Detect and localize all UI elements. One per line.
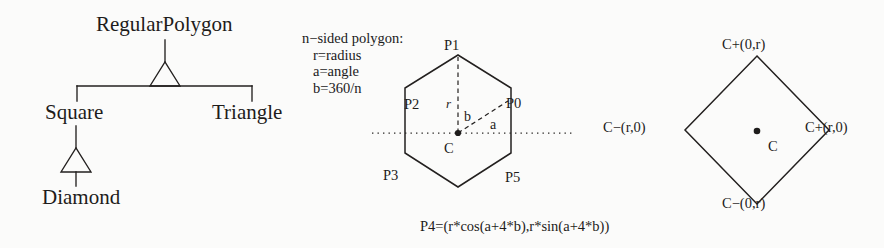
- hexagon-vertex-label-p3: P3: [383, 168, 398, 183]
- diamond-center-label: C: [768, 139, 778, 154]
- figure-canvas: RegularPolygon Square Triangle Diamond n…: [0, 0, 884, 248]
- hexagon-vertex-label-p2: P2: [404, 97, 419, 112]
- uml-generalization-triangle-square: [61, 148, 91, 172]
- hexagon-center-dot: [455, 130, 461, 136]
- diamond-center-dot: [754, 128, 761, 135]
- uml-class-label-triangle: Triangle: [212, 102, 282, 123]
- hexagon-radius-label: r: [446, 97, 451, 110]
- uml-root-class-label: RegularPolygon: [96, 14, 233, 35]
- diamond-vertex-label-top: C+(0,r): [722, 37, 765, 52]
- hexagon-vertex-label-p1: P1: [444, 38, 459, 53]
- hexagon-vertex-label-p5: P5: [505, 170, 520, 185]
- uml-class-label-diamond: Diamond: [42, 187, 120, 208]
- uml-generalization-triangle-root: [150, 62, 180, 86]
- hexagon-angle-a-label: a: [490, 118, 496, 132]
- hexagon-note-line-0: n−sided polygon:: [302, 30, 403, 47]
- hexagon-angle-b-label: b: [464, 110, 471, 124]
- diamond-vertex-label-left: C−(r,0): [603, 120, 646, 135]
- uml-class-label-square: Square: [45, 102, 103, 123]
- hexagon-vertex-formula-p4: P4=(r*cos(a+4*b),r*sin(a+4*b)): [420, 219, 609, 234]
- diamond-vertex-label-bottom: C−(0,r): [722, 196, 765, 211]
- hexagon-note-line-2: a=angle: [302, 63, 403, 80]
- hexagon-vertex-label-p0: P0: [506, 96, 521, 111]
- hexagon-definition-note: n−sided polygon: r=radius a=angle b=360/…: [302, 30, 403, 96]
- hexagon-note-line-3: b=360/n: [302, 80, 403, 97]
- hexagon-center-label: C: [444, 141, 454, 156]
- hexagon-note-line-1: r=radius: [302, 47, 403, 64]
- diamond-vertex-label-right: C+(r,0): [805, 120, 848, 135]
